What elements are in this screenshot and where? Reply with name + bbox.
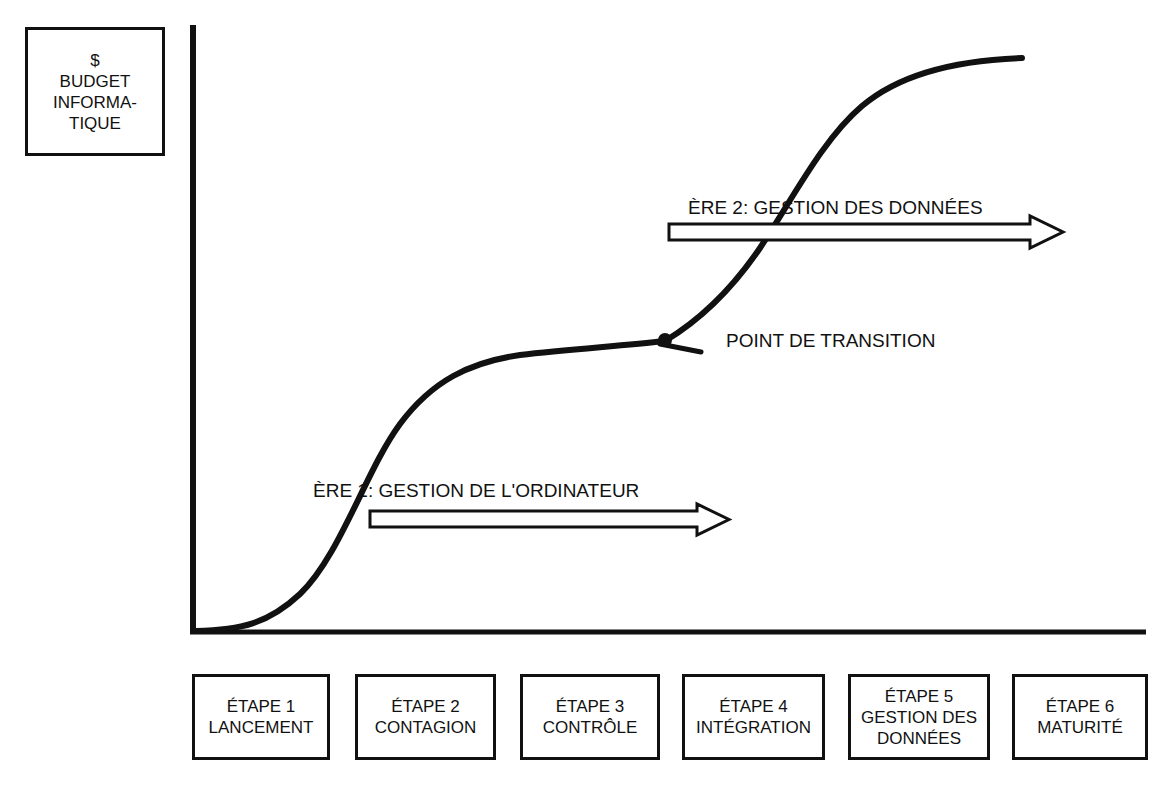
stage-box-1[interactable]: ÉTAPE 1 LANCEMENT [192, 674, 330, 760]
stage-6-line-2: MATURITÉ [1037, 717, 1123, 738]
stage-4-line-1: ÉTAPE 4 [719, 696, 788, 717]
stage-3-line-1: ÉTAPE 3 [556, 696, 625, 717]
stage-6-line-1: ÉTAPE 6 [1046, 696, 1115, 717]
transition-point-label: POINT DE TRANSITION [726, 330, 935, 352]
stage-2-line-1: ÉTAPE 2 [391, 696, 460, 717]
diagram-graphics [0, 0, 1171, 787]
era-2-label: ÈRE 2: GESTION DES DONNÉES [688, 197, 983, 219]
stage-box-6[interactable]: ÉTAPE 6 MATURITÉ [1012, 674, 1148, 760]
era-1-label: ÈRE 1: GESTION DE L'ORDINATEUR [313, 480, 639, 502]
stage-4-line-2: INTÉGRATION [696, 717, 811, 738]
stage-5-line-2: GESTION DES [861, 707, 977, 728]
stage-1-line-2: LANCEMENT [209, 717, 314, 738]
stage-box-3[interactable]: ÉTAPE 3 CONTRÔLE [520, 674, 660, 760]
stage-3-line-2: CONTRÔLE [543, 717, 637, 738]
era-1-arrow [370, 504, 729, 535]
stage-box-5[interactable]: ÉTAPE 5 GESTION DES DONNÉES [848, 674, 990, 760]
stage-5-line-1: ÉTAPE 5 [885, 686, 954, 707]
stage-1-line-1: ÉTAPE 1 [227, 696, 296, 717]
stage-box-4[interactable]: ÉTAPE 4 INTÉGRATION [682, 674, 825, 760]
diagram-canvas: $ BUDGET INFORMA- TIQUE ÈRE 1: GESTION D… [0, 0, 1171, 787]
stage-2-line-2: CONTAGION [375, 717, 477, 738]
stage-5-line-3: DONNÉES [877, 728, 961, 749]
era-2-arrow [669, 216, 1063, 248]
transition-point-marker [658, 333, 672, 347]
stage-box-2[interactable]: ÉTAPE 2 CONTAGION [355, 674, 496, 760]
